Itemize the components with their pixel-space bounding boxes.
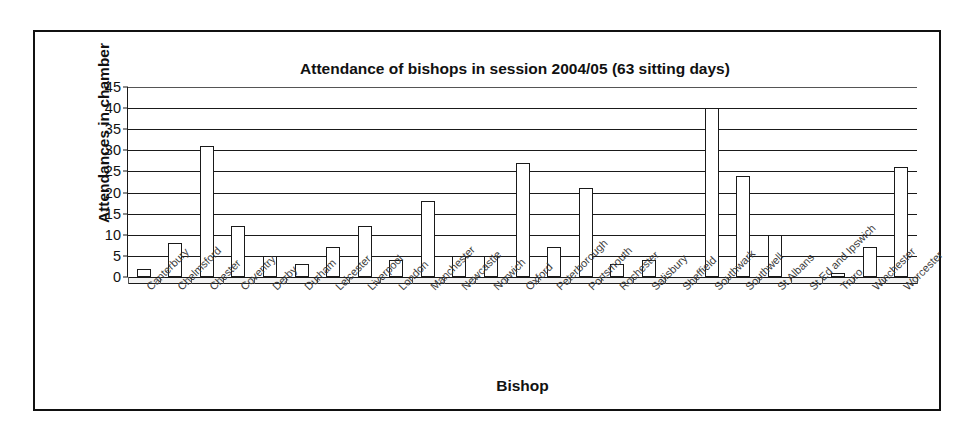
chart-frame: Attendances in chamber Attendance of bis… xyxy=(33,30,941,411)
plot-area: 051015202530354045 xyxy=(128,87,917,277)
bar xyxy=(705,108,719,277)
y-axis-tick-label: 20 xyxy=(105,185,121,200)
chart-title: Attendance of bishops in session 2004/05… xyxy=(115,60,915,78)
x-axis-category-labels: CanterburyChelmsfordChesterCoventryDerby… xyxy=(128,284,917,379)
y-axis-tick-label: 35 xyxy=(105,122,121,137)
y-axis-tick-label: 30 xyxy=(105,143,121,158)
y-axis-tick-label: 40 xyxy=(105,101,121,116)
y-axis-tick-label: 0 xyxy=(113,270,121,285)
y-axis-tick-label: 5 xyxy=(113,249,121,264)
x-axis-tick xyxy=(128,277,129,284)
y-axis-tick-label: 10 xyxy=(105,228,121,243)
bar-series xyxy=(128,87,917,277)
bar xyxy=(863,247,877,277)
bar xyxy=(137,269,151,277)
chart-screenshot: Attendances in chamber Attendance of bis… xyxy=(0,0,975,440)
x-axis-title: Bishop xyxy=(128,377,917,395)
y-axis-tick-label: 15 xyxy=(105,206,121,221)
y-axis-tick-label: 45 xyxy=(105,80,121,95)
y-axis-tick-label: 25 xyxy=(105,164,121,179)
